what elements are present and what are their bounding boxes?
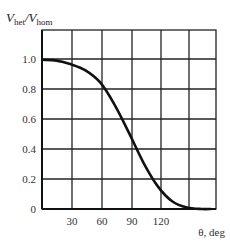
x-tick: 120 — [153, 215, 170, 227]
x-tick: 30 — [67, 215, 79, 227]
y-tick: 0.6 — [22, 113, 36, 125]
y-tick: 0 — [31, 203, 37, 215]
y-tick: 1.0 — [22, 53, 36, 65]
x-tick: 60 — [97, 215, 109, 227]
data-curve — [42, 60, 211, 209]
y-tick-labels: 0 0.2 0.4 0.6 0.8 1.0 — [22, 53, 36, 215]
y-tick: 0.8 — [22, 83, 36, 95]
y-tick: 0.2 — [22, 173, 36, 185]
x-tick: 90 — [127, 215, 139, 227]
chart: 0 0.2 0.4 0.6 0.8 1.0 30 60 90 120 θ, de… — [0, 0, 230, 242]
y-axis-label: Vhet/Vhom — [6, 10, 53, 27]
x-tick-labels: 30 60 90 120 — [67, 215, 170, 227]
x-axis-label: θ, deg — [198, 226, 225, 238]
y-tick: 0.4 — [22, 143, 36, 155]
grid — [42, 30, 216, 209]
